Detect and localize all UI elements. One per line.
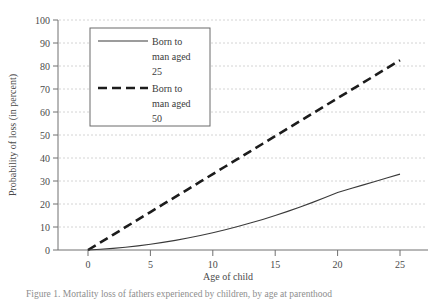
y-tick-label-20: 20: [40, 199, 50, 210]
x-axis-ticks: 0510152025: [86, 250, 406, 270]
y-tick-label-10: 10: [40, 222, 50, 233]
x-axis-title: Age of child: [203, 271, 253, 282]
legend-box-border: [90, 28, 210, 126]
x-tick-label-0: 0: [86, 259, 91, 270]
y-axis-title: Probability of loss (in percent): [7, 74, 19, 196]
legend-label-50-line3: 50: [152, 113, 162, 124]
legend-label-25-line2: man aged: [152, 51, 191, 62]
legend-label-25-line1: Born to: [152, 36, 182, 47]
y-tick-label-60: 60: [40, 107, 50, 118]
x-tick-label-5: 5: [148, 259, 153, 270]
series-line-born-to-man-aged-25: [88, 174, 400, 250]
chart-legend: Born to man aged 25 Born to man aged 50: [90, 28, 210, 126]
y-tick-label-80: 80: [40, 61, 50, 72]
x-tick-label-20: 20: [333, 259, 343, 270]
y-tick-label-100: 100: [35, 15, 50, 26]
legend-label-25-line3: 25: [152, 66, 162, 77]
y-tick-label-90: 90: [40, 38, 50, 49]
probability-of-loss-line-chart: 0102030405060708090100 0510152025 Probab…: [0, 0, 438, 300]
figure-caption: Figure 1. Mortality loss of fathers expe…: [0, 288, 438, 300]
legend-label-50-line2: man aged: [152, 98, 191, 109]
figure-caption-clip: Figure 1. Mortality loss of fathers expe…: [0, 288, 438, 300]
y-axis-ticks: 0102030405060708090100: [35, 15, 58, 256]
x-tick-label-10: 10: [208, 259, 218, 270]
y-tick-label-70: 70: [40, 84, 50, 95]
y-tick-label-0: 0: [45, 245, 50, 256]
y-tick-label-40: 40: [40, 153, 50, 164]
legend-label-50-line1: Born to: [152, 83, 182, 94]
figure-container: 0102030405060708090100 0510152025 Probab…: [0, 0, 438, 300]
x-tick-label-25: 25: [395, 259, 405, 270]
x-tick-label-15: 15: [270, 259, 280, 270]
y-tick-label-50: 50: [40, 130, 50, 141]
y-tick-label-30: 30: [40, 176, 50, 187]
